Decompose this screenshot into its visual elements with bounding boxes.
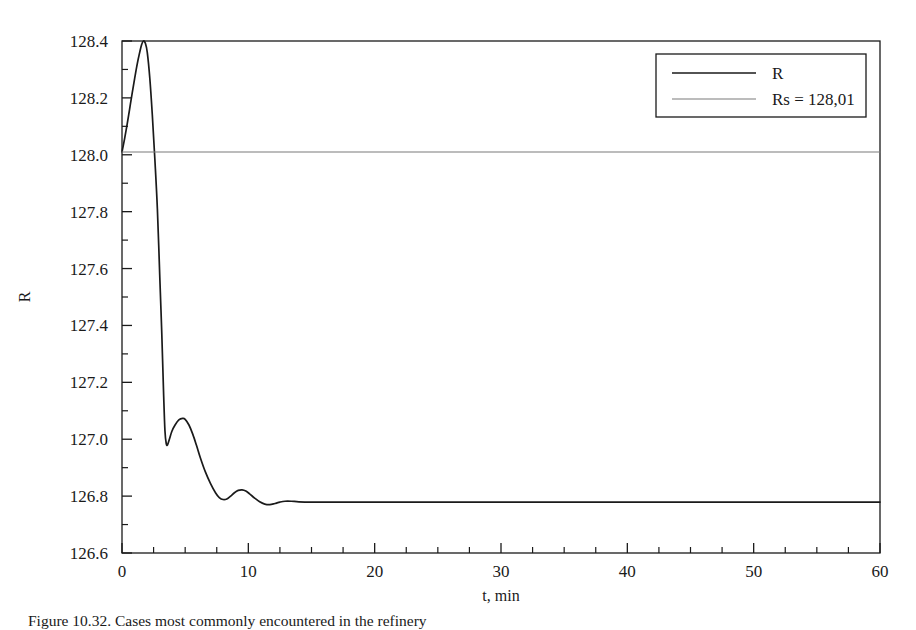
chart-figure: 126.6126.8127.0127.2127.4127.6127.8128.0… (0, 0, 916, 630)
x-tick-label: 0 (118, 562, 127, 581)
y-tick-label: 127.4 (70, 316, 109, 335)
x-tick-label: 40 (619, 562, 636, 581)
y-tick-label: 127.2 (70, 373, 108, 392)
y-axis-title: R (16, 291, 33, 302)
y-tick-label: 128.2 (70, 89, 108, 108)
x-tick-label: 20 (366, 562, 383, 581)
legend-label-0: R (772, 64, 784, 83)
x-tick-label: 10 (240, 562, 257, 581)
figure-root: 126.6126.8127.0127.2127.4127.6127.8128.0… (0, 0, 916, 630)
x-axis-title: t, min (482, 587, 519, 604)
chart-svg: 126.6126.8127.0127.2127.4127.6127.8128.0… (0, 0, 916, 630)
x-tick-label: 60 (872, 562, 889, 581)
y-tick-label: 127.8 (70, 203, 108, 222)
y-tick-label: 128.4 (70, 32, 109, 51)
legend-label-1: Rs = 128,01 (772, 90, 855, 109)
x-tick-label: 30 (493, 562, 510, 581)
y-tick-label: 126.6 (70, 544, 108, 563)
figure-caption: Figure 10.32. Cases most commonly encoun… (28, 612, 888, 630)
y-tick-label: 127.6 (70, 260, 108, 279)
x-tick-label: 50 (745, 562, 762, 581)
y-tick-label: 128.0 (70, 146, 108, 165)
plot-frame (122, 41, 880, 553)
y-tick-label: 126.8 (70, 487, 108, 506)
y-tick-label: 127.0 (70, 430, 108, 449)
